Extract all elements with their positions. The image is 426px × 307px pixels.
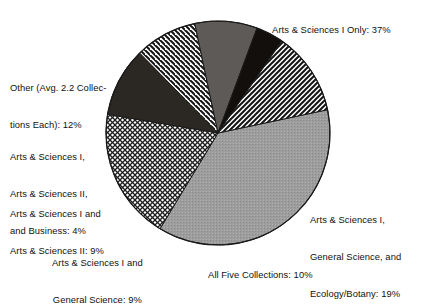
slice-label-line: Arts & Sciences I and — [10, 208, 104, 220]
slice-label-line: All Five Collections: 10% — [208, 269, 312, 280]
slice-label-as1-gs-ecology: Arts & Sciences I, General Science, and … — [310, 190, 401, 307]
slice-label-line: General Science: 9% — [52, 294, 143, 306]
slice-label-line: Arts & Sciences I and — [52, 257, 143, 269]
slice-label-all-five-collections: All Five Collections: 10% — [198, 257, 313, 294]
slice-label-line: Ecology/Botany: 19% — [310, 288, 401, 300]
slice-label-as1-only: Arts & Sciences I Only: 37% — [262, 12, 391, 49]
slice-label-line: Arts & Sciences I Only: 37% — [272, 24, 391, 35]
slice-label-line: General Science, and — [310, 251, 401, 263]
pie-slices — [106, 21, 330, 245]
slice-label-line: Arts & Sciences I, — [10, 151, 88, 163]
slice-label-line: Arts & Sciences I, — [310, 214, 401, 226]
slice-label-as1-general-science: Arts & Sciences I and General Science: 9… — [52, 233, 143, 307]
slice-label-line: Other (Avg. 2.2 Collec- — [10, 82, 106, 94]
